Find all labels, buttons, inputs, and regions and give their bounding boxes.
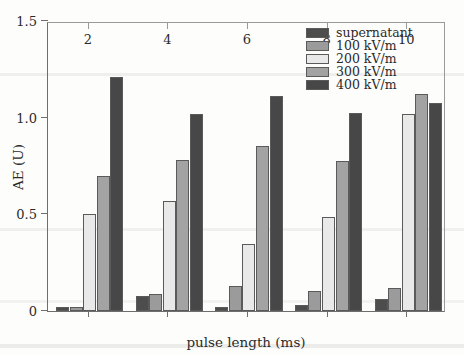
chart-legend: supernatant100 kV/m200 kV/m300 kV/m400 k… — [306, 27, 413, 91]
y-axis-tick-label: 0 — [29, 305, 37, 318]
bar — [215, 307, 228, 311]
bar — [322, 217, 335, 311]
bar — [308, 291, 321, 311]
bar — [97, 176, 110, 311]
legend-swatch — [306, 41, 329, 51]
bar — [242, 244, 255, 311]
bar — [190, 114, 203, 311]
y-axis-tick-label: 1.0 — [16, 111, 37, 124]
bar — [110, 77, 123, 311]
y-axis-tick-label: 1.5 — [16, 15, 37, 28]
bar — [136, 296, 149, 311]
chart-figure: AE (U) 00.51.01.5 246810 pulse length (m… — [0, 0, 464, 355]
legend-swatch — [306, 28, 329, 38]
bar — [256, 146, 269, 311]
bar — [70, 307, 83, 311]
legend-label: 400 kV/m — [336, 79, 397, 92]
bar-group — [215, 23, 282, 311]
legend-item: 400 kV/m — [306, 79, 413, 91]
x-axis-tick — [406, 311, 407, 317]
legend-swatch — [306, 54, 329, 64]
bar — [388, 288, 401, 311]
bar-group — [136, 23, 203, 311]
x-axis-tick — [88, 311, 89, 317]
bar — [402, 114, 415, 311]
bar — [415, 94, 428, 311]
legend-swatch — [306, 80, 329, 90]
bar — [83, 214, 96, 311]
x-axis-tick — [247, 311, 248, 317]
bar — [375, 299, 388, 311]
x-axis-tick — [167, 311, 168, 317]
bar — [429, 103, 442, 311]
y-axis-tick: 0 — [41, 310, 48, 311]
bar — [270, 96, 283, 311]
x-axis-tick — [327, 311, 328, 317]
y-axis-tick: 1.5 — [41, 20, 48, 21]
x-axis-label: pulse length (ms) — [47, 334, 445, 350]
bar — [295, 305, 308, 311]
legend-swatch — [306, 67, 329, 77]
bar-group — [56, 23, 123, 311]
bar — [336, 161, 349, 311]
y-axis-tick-label: 0.5 — [16, 208, 37, 221]
bar — [229, 286, 242, 311]
bar — [163, 201, 176, 311]
bar — [149, 294, 162, 311]
bar — [349, 113, 362, 311]
y-axis-tick: 0.5 — [41, 213, 48, 214]
y-axis-label: AE (U) — [10, 144, 26, 190]
bar — [56, 307, 69, 311]
bar — [176, 160, 189, 311]
y-axis-tick: 1.0 — [41, 117, 48, 118]
